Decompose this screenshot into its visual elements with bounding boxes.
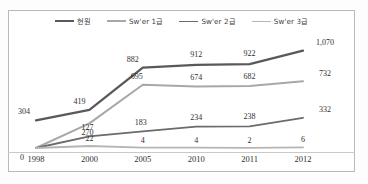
- data-label: 332: [319, 104, 331, 113]
- x-axis-tick: 2010: [188, 154, 205, 164]
- data-label: 238: [244, 112, 256, 121]
- legend-label: 현원: [77, 16, 91, 26]
- x-axis-tick: 2000: [81, 154, 98, 164]
- data-label: 4: [141, 135, 145, 144]
- data-label: 912: [190, 49, 202, 58]
- data-label: 695: [131, 71, 143, 80]
- legend-swatch-icon: [55, 20, 74, 22]
- legend-item[interactable]: Sw'er 2급: [179, 16, 235, 26]
- data-label: 6: [301, 135, 305, 144]
- data-label: 882: [127, 54, 139, 63]
- data-label: 682: [244, 71, 256, 80]
- x-axis: 199820002005201020112012: [8, 152, 355, 172]
- x-axis-line: [8, 152, 355, 153]
- data-label: 1,070: [316, 37, 334, 46]
- data-label: 183: [135, 118, 147, 127]
- x-axis-tick: 2005: [134, 154, 151, 164]
- legend-item[interactable]: 현원: [55, 16, 91, 26]
- legend-label: Sw'er 2급: [201, 16, 235, 26]
- data-label: 127: [81, 123, 93, 132]
- legend-item[interactable]: Sw'er 1급: [107, 16, 163, 26]
- data-label: 304: [18, 107, 30, 116]
- data-label: 732: [319, 69, 331, 78]
- legend-swatch-icon: [252, 21, 271, 22]
- data-label: 22: [85, 133, 93, 142]
- legend-swatch-icon: [107, 20, 126, 22]
- legend-item[interactable]: Sw'er 3급: [252, 16, 308, 26]
- data-label: 4: [194, 135, 198, 144]
- series-line: [36, 146, 303, 148]
- legend-label: Sw'er 1급: [129, 16, 163, 26]
- x-axis-tick: 1998: [28, 154, 45, 164]
- chart-legend: 현원Sw'er 1급Sw'er 2급Sw'er 3급: [8, 10, 355, 32]
- legend-label: Sw'er 3급: [274, 16, 308, 26]
- data-label: 419: [73, 96, 85, 105]
- data-label: 922: [244, 49, 256, 58]
- data-label: 234: [190, 112, 202, 121]
- line-chart: 현원Sw'er 1급Sw'er 2급Sw'er 3급 3044198829129…: [0, 0, 368, 184]
- x-axis-tick: 2012: [295, 154, 312, 164]
- legend-swatch-icon: [179, 21, 198, 22]
- series-line: [36, 81, 303, 148]
- x-axis-tick: 2011: [241, 154, 258, 164]
- series-line: [36, 118, 303, 148]
- data-label: 2: [248, 135, 252, 144]
- data-label: 674: [190, 72, 202, 81]
